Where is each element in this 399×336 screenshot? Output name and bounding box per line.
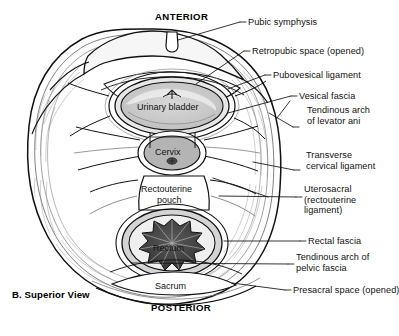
organ-label-cervix: Cervix [155,147,181,157]
callout-label-tendinous-arch-levator-ani: Tendinous arch of levator ani [307,105,371,126]
leader-tendinous-arch-levator-ani-2 [277,101,290,118]
callout-label-pubovesical-ligament: Pubovesical ligament [273,70,361,81]
figure-caption: B. Superior View [12,289,90,300]
orientation-label-posterior: POSTERIOR [151,302,211,313]
callout-label-vesical-fascia: Vesical fascia [299,91,355,102]
organ-label-sacrum: Sacrum [155,281,186,291]
leader-presacral-space [232,283,285,290]
organ-label-rectum: Rectum [153,243,184,253]
organ-label-rectouterine-pouch-line2: pouch [157,195,182,205]
pubic-symphysis-notch [166,32,178,52]
leader-pubic-symphysis [178,22,240,40]
callout-label-uterosacral-ligament: Uterosacral (rectouterine ligament) [304,184,382,216]
organ-label-rectouterine-pouch-line1: Rectouterine [141,184,192,194]
callout-label-presacral-space: Presacral space (opened) [293,285,399,296]
callout-label-rectal-fascia: Rectal fascia [308,236,361,247]
callout-label-pubic-symphysis: Pubic symphysis [248,17,317,28]
orientation-label-anterior: ANTERIOR [155,11,208,22]
organ-label-urinary-bladder: Urinary bladder [137,102,199,112]
callout-label-retropubic-space: Retropubic space (opened) [252,46,364,57]
callout-label-transverse-cervical-ligament: Transverse cervical ligament [306,150,382,171]
callout-label-tendinous-arch-pelvic-fascia: Tendinous arch of pelvic fascia [296,252,388,273]
figure-canvas: ANTERIOR POSTERIOR B. Superior View Urin… [0,0,399,336]
